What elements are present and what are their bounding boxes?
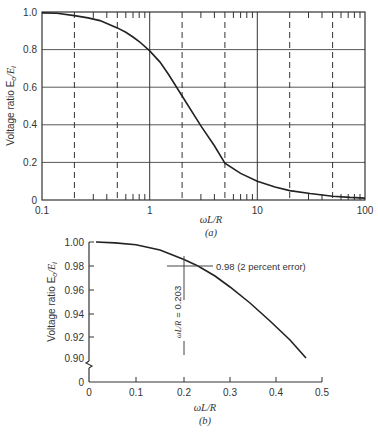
figure: 0 0.2 0.4 0.6 0.8 1.0 0.1 1 10 100 ωL/R …: [0, 0, 378, 435]
chart-b-annotation: 0.98 (2 percent error): [216, 261, 306, 272]
chart-a-ylabel: Voltage ratio Eo/Ei: [5, 66, 17, 146]
chart-b-ytick: 0.96: [65, 285, 85, 296]
chart-b-xlabel: ωL/R: [194, 402, 217, 413]
chart-b-xtick: 0.3: [223, 387, 237, 398]
chart-b-ylabel: Voltage ratio Eo/Ei: [46, 262, 58, 342]
chart-a-ytick: 0: [31, 195, 37, 206]
chart-b-ytick: 0.98: [65, 261, 85, 272]
chart-a-xtick: 100: [357, 205, 374, 216]
chart-a-xtick: 0.1: [35, 205, 49, 216]
chart-a-vgrid-solid: [150, 12, 258, 200]
chart-b-xtick: 0.5: [315, 387, 329, 398]
chart-b-yticks: 0 0.90 0.92 0.94 0.96 0.98 1.00: [65, 237, 85, 388]
chart-a-ytick: 1.0: [23, 7, 37, 18]
chart-b-xtick: 0: [86, 387, 92, 398]
chart-b-xtick: 0.1: [129, 387, 143, 398]
chart-b-ytick: 1.00: [65, 237, 85, 248]
chart-a-ytick: 0.4: [23, 119, 37, 130]
chart-b-xticks-marks: [136, 377, 322, 382]
chart-b-xticks: 0 0.1 0.2 0.3 0.4 0.5: [86, 387, 329, 398]
chart-b-xtick: 0.2: [177, 387, 191, 398]
chart-a-xtick: 10: [252, 205, 264, 216]
chart-b-yticks-marks: [89, 242, 94, 337]
svg-text:Voltage ratio Eo/Ei: Voltage ratio Eo/Ei: [46, 262, 58, 342]
chart-a-yticks: 0 0.2 0.4 0.6 0.8 1.0: [23, 7, 37, 206]
chart-b-ytick: 0.92: [65, 332, 85, 343]
chart-a-minor-ticks: [93, 12, 360, 200]
chart-b: 0.98 (2 percent error) ωL/R= 0.203 0 0.9…: [46, 237, 329, 428]
chart-b-vertical-annotation: ωL/R= 0.203: [172, 286, 183, 338]
chart-a-xtick: 1: [147, 205, 153, 216]
chart-a-caption: (a): [205, 227, 218, 239]
chart-a-xlabel: ωL/R: [200, 214, 223, 225]
chart-a-hgrid: [42, 50, 365, 163]
svg-text:Voltage ratio Eo/Ei: Voltage ratio Eo/Ei: [5, 66, 17, 146]
chart-b-ytick: 0: [78, 377, 84, 388]
chart-b-ytick: 0.90: [65, 353, 85, 364]
chart-b-xtick: 0.4: [269, 387, 283, 398]
chart-b-ytick: 0.94: [65, 309, 85, 320]
chart-a-vgrid-dashed: [74, 12, 332, 200]
chart-a-ytick: 0.2: [23, 157, 37, 168]
chart-b-curve: [96, 242, 306, 358]
chart-a-ytick: 0.6: [23, 82, 37, 93]
chart-a-frame: [42, 12, 365, 200]
svg-text:ωL/R= 0.203: ωL/R= 0.203: [172, 286, 183, 338]
chart-a-curve: [42, 13, 365, 198]
chart-b-caption: (b): [199, 415, 212, 427]
chart-a: 0 0.2 0.4 0.6 0.8 1.0 0.1 1 10 100 ωL/R …: [5, 7, 374, 240]
chart-a-ytick: 0.8: [23, 44, 37, 55]
